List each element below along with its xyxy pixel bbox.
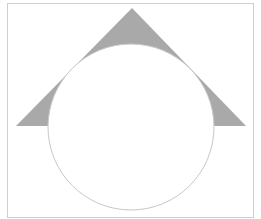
diagram-canvas bbox=[0, 0, 261, 219]
white-circle bbox=[48, 44, 214, 210]
